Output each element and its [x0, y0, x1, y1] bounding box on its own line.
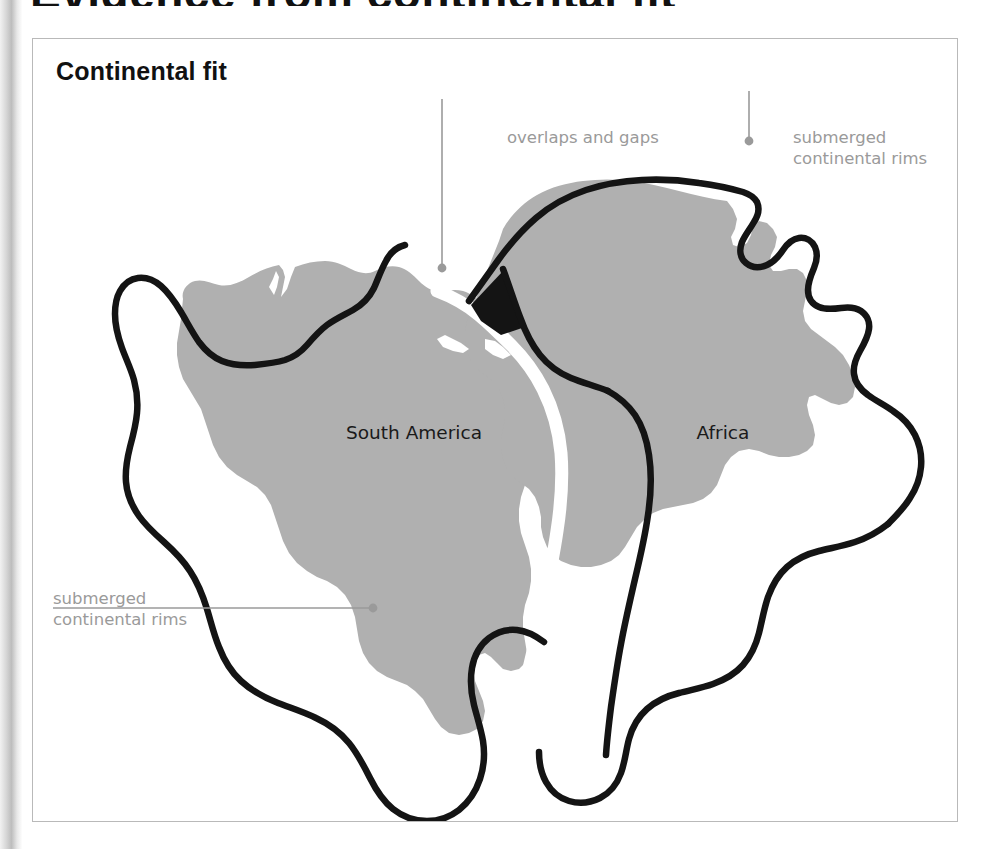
leader-dot-rims-left	[369, 604, 378, 613]
page-heading-text: Evidence from continental fit	[30, 0, 730, 6]
leader-dot-rims-right	[745, 137, 754, 146]
figure-panel: Continental fit overlaps and gaps submer…	[32, 38, 958, 822]
leader-dot-overlaps	[438, 264, 447, 273]
continental-fit-map: South America Africa	[33, 39, 957, 821]
page-heading-cutoff: Evidence from continental fit	[30, 0, 730, 6]
book-gutter-shadow	[0, 0, 22, 849]
map-label-africa: Africa	[697, 422, 750, 443]
map-label-south-america: South America	[346, 422, 482, 443]
